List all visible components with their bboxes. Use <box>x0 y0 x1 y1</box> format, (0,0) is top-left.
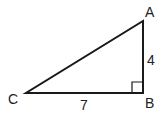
vertex-label-c: C <box>8 91 18 107</box>
side-length-ab: 4 <box>147 52 155 68</box>
right-angle-marker <box>132 82 143 93</box>
triangle-abc <box>26 21 143 93</box>
vertex-label-b: B <box>145 95 154 111</box>
side-length-cb: 7 <box>80 97 88 113</box>
vertex-label-a: A <box>145 4 155 20</box>
triangle-diagram: A B C 4 7 <box>0 0 163 116</box>
